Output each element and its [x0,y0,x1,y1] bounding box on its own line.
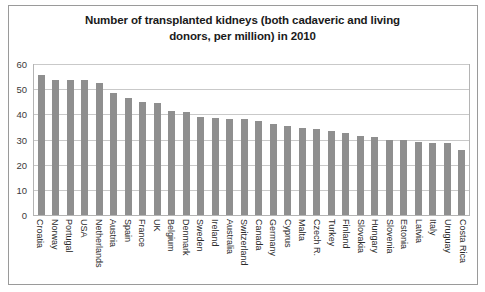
chart-title-line-2: donors, per million) in 2010 [169,30,316,42]
bar-cyprus [284,126,291,215]
x-axis-label-uk: UK [152,219,162,232]
x-axis-label-slot: Turkey [325,217,339,287]
x-axis-label-slot: Latvia [412,217,426,287]
x-axis-label-slot: Slovenia [383,217,397,287]
x-axis-label-norway: Norway [50,219,60,250]
bar-australia [226,119,233,215]
bar-latvia [415,142,422,215]
x-axis-label-slot: Norway [48,217,62,287]
chart-figure: Number of transplanted kidneys (both cad… [0,0,485,292]
bar-belgium [168,111,175,215]
x-axis-label-slot: Canada [252,217,266,287]
bar-netherlands [96,83,103,215]
x-axis-label-malta: Malta [297,219,307,241]
x-axis-label-slot: Czech R. [310,217,324,287]
x-axis-label-costa-rica: Costa Rica [458,219,468,263]
y-axis-tick-40: 40 [16,109,27,120]
bar-norway [52,80,59,215]
bar-spain [125,98,132,215]
x-axis-label-slot: Ireland [208,217,222,287]
bar-costa-rica [458,150,465,215]
x-axis-labels: CroatiaNorwayPortugalUSANetherlandsAustr… [33,217,470,289]
chart-title: Number of transplanted kidneys (both cad… [30,12,455,44]
y-axis-tick-30: 30 [16,134,27,145]
y-axis-tick-60: 60 [16,59,27,70]
x-axis-label-latvia: Latvia [414,219,424,243]
x-axis-label-finland: Finland [341,219,351,249]
y-axis-tick-10: 10 [16,184,27,195]
x-axis-label-croatia: Croatia [35,219,45,248]
x-axis-label-canada: Canada [254,219,264,251]
x-axis-label-slot: Italy [426,217,440,287]
x-axis-label-usa: USA [79,219,89,238]
x-axis-label-uruguay: Uruguay [443,219,453,253]
bar-canada [255,121,262,215]
bar-finland [342,133,349,215]
x-axis-label-slot: Finland [339,217,353,287]
x-axis-label-slot: Malta [295,217,309,287]
x-axis-label-denmark: Denmark [181,219,191,256]
bar-croatia [38,75,45,215]
bar-usa [81,80,88,215]
x-axis-label-estonia: Estonia [399,219,409,249]
y-axis-tick-50: 50 [16,84,27,95]
x-axis-label-slovenia: Slovenia [385,219,395,254]
x-axis-label-czech-r: Czech R. [312,219,322,256]
x-axis-label-slot: France [135,217,149,287]
x-axis-label-sweden: Sweden [195,219,205,252]
x-axis-label-australia: Australia [225,219,235,254]
x-axis-label-slovakia: Slovakia [356,219,366,253]
x-axis-label-switzerland: Switzerland [239,219,249,266]
x-axis-label-portugal: Portugal [64,219,74,253]
y-axis: 6050403020100 [0,56,31,224]
x-axis-label-slot: UK [150,217,164,287]
bar-sweden [197,117,204,215]
bar-uk [154,103,161,215]
bar-uruguay [444,143,451,215]
bar-france [139,102,146,215]
x-axis-label-slot: USA [77,217,91,287]
x-axis-label-slot: Hungary [368,217,382,287]
x-axis-label-slot: Uruguay [441,217,455,287]
x-axis-label-ireland: Ireland [210,219,220,247]
x-axis-label-hungary: Hungary [370,219,380,253]
x-axis-label-slot: Switzerland [237,217,251,287]
x-axis-label-france: France [137,219,147,247]
x-axis-label-belgium: Belgium [166,219,176,252]
x-axis-label-slot: Costa Rica [456,217,470,287]
bar-slovenia [386,140,393,216]
bar-czech-r [313,129,320,215]
bar-hungary [371,137,378,215]
chart-title-line-1: Number of transplanted kidneys (both cad… [85,14,400,26]
x-axis-label-austria: Austria [108,219,118,247]
x-axis-label-italy: Italy [428,219,438,236]
x-axis-label-spain: Spain [123,219,133,242]
y-axis-tick-20: 20 [16,159,27,170]
x-axis-label-netherlands: Netherlands [94,219,104,268]
x-axis-label-slot: Belgium [164,217,178,287]
x-axis-label-slot: Estonia [397,217,411,287]
bar-portugal [67,80,74,215]
x-axis-label-slot: Croatia [33,217,47,287]
y-axis-tick-0: 0 [22,210,27,221]
x-axis-label-slot: Portugal [62,217,76,287]
bar-malta [299,128,306,215]
bar-series [34,64,469,215]
x-axis-label-slot: Netherlands [92,217,106,287]
bar-germany [270,124,277,215]
x-axis-label-germany: Germany [268,219,278,256]
x-axis-label-cyprus: Cyprus [283,219,293,248]
bar-denmark [183,112,190,215]
x-axis-label-slot: Denmark [179,217,193,287]
plot-area [33,64,470,216]
x-axis-label-slot: Cyprus [281,217,295,287]
bar-turkey [328,131,335,215]
bar-estonia [400,140,407,216]
x-axis-label-slot: Slovakia [354,217,368,287]
bar-italy [429,143,436,215]
bar-ireland [212,118,219,215]
x-axis-label-slot: Australia [223,217,237,287]
bar-austria [110,93,117,215]
x-axis-label-slot: Sweden [193,217,207,287]
x-axis-label-slot: Spain [121,217,135,287]
